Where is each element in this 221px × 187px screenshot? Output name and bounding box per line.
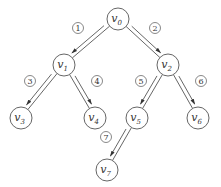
step-number: 2 — [152, 24, 157, 33]
step-number: 4 — [94, 77, 99, 86]
node-label-subscript: 6 — [197, 118, 202, 126]
traversal-arrow-7 — [111, 129, 127, 156]
step-number: 3 — [27, 77, 32, 86]
node-v0: v0 — [107, 8, 129, 30]
edge-v2-v6 — [173, 75, 192, 109]
node-v5: v5 — [126, 107, 148, 129]
edge-v1-v4 — [70, 74, 90, 108]
step-label-7: 7 — [101, 132, 112, 143]
step-label-4: 4 — [92, 76, 103, 87]
node-label-subscript: 3 — [20, 118, 25, 126]
node-label-subscript: 5 — [136, 118, 141, 126]
node-label-subscript: 1 — [63, 65, 67, 73]
node-v6: v6 — [187, 107, 209, 129]
node-v7: v7 — [96, 159, 118, 181]
step-label-2: 2 — [150, 23, 161, 34]
node-v3: v3 — [10, 107, 32, 129]
traversal-arrow-4 — [75, 76, 91, 104]
node-label-subscript: 4 — [93, 118, 98, 126]
node-v1: v1 — [53, 54, 75, 76]
node-label-subscript: 0 — [117, 19, 122, 27]
step-number: 7 — [103, 133, 108, 142]
step-label-1: 1 — [73, 23, 84, 34]
step-number: 6 — [198, 77, 203, 86]
node-label-subscript: 7 — [106, 170, 111, 178]
edge-v5-v7 — [112, 128, 131, 161]
step-label-6: 6 — [196, 76, 207, 87]
node-label-subscript: 2 — [166, 65, 172, 73]
step-label-3: 3 — [25, 76, 36, 87]
traversal-arrow-6 — [179, 76, 195, 104]
step-label-5: 5 — [136, 76, 147, 87]
node-v4: v4 — [84, 107, 106, 129]
tree-diagram: 1234567 v0v1v2v3v4v5v6v7 — [0, 0, 221, 187]
node-v2: v2 — [157, 54, 179, 76]
step-number: 1 — [75, 24, 80, 33]
step-number: 5 — [138, 77, 143, 86]
step-labels-layer: 1234567 — [25, 23, 207, 143]
